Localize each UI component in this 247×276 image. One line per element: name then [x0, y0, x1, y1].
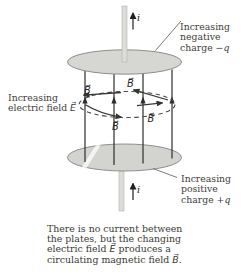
e-field-arrowhead	[140, 97, 145, 104]
caption-text: .	[179, 254, 182, 265]
diagram-canvas: i i B⃗ B⃗ B⃗ B⃗ Increasing negative char…	[0, 0, 247, 222]
annotation-positive-charge: Increasing positive charge +q	[181, 173, 231, 205]
current-label-top: i	[137, 12, 140, 23]
annotation-line: positive	[181, 183, 218, 194]
b-arrow-right	[134, 90, 169, 100]
pointer-line-positive-charge	[153, 169, 177, 178]
pointer-line-negative-charge	[156, 21, 182, 51]
annotation-line: negative	[180, 31, 221, 42]
annotation-line: Increasing	[181, 173, 231, 184]
b-label-back-right: B⃗	[127, 77, 134, 89]
caption-line: circulating magnetic field B⃗.	[47, 255, 217, 265]
current-label-bottom: i	[137, 184, 140, 195]
capacitor-displacement-current-figure: i i B⃗ B⃗ B⃗ B⃗ Increasing negative char…	[0, 0, 247, 276]
figure-caption: There is no current between the plates, …	[47, 224, 217, 265]
annotation-line: Increasing	[180, 21, 230, 32]
caption-text: circulating magnetic field	[47, 254, 172, 265]
b-label-front-left: B⃗	[112, 120, 119, 132]
annotation-line: electric field E⃗	[8, 101, 76, 113]
e-field-arrowhead	[111, 97, 116, 104]
annotation-negative-charge: Increasing negative charge −q	[180, 21, 230, 53]
b-label-back-left: B⃗	[84, 84, 91, 96]
top-wire	[122, 6, 127, 62]
b-field-loop-dashed	[79, 92, 175, 118]
b-field-arrows	[84, 90, 169, 118]
b-label-front-right: B⃗	[148, 112, 155, 124]
annotation-line: charge +q	[181, 194, 230, 205]
annotation-line: charge −q	[180, 42, 229, 53]
annotation-electric-field: Increasing electric field E⃗	[8, 92, 76, 113]
